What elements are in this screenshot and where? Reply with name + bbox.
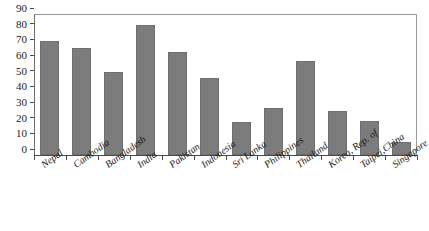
x-axis-tick-mark: [353, 156, 354, 160]
x-axis-tick-mark: [321, 156, 322, 160]
y-axis-tick: 10: [16, 127, 34, 139]
y-axis-tick: 80: [16, 18, 34, 30]
y-axis-tick: 0: [22, 143, 35, 155]
x-axis-tick-mark: [385, 156, 386, 160]
y-axis-tick: 40: [16, 80, 34, 92]
x-axis-tick-mark: [162, 156, 163, 160]
y-axis-tick-label: 60: [16, 49, 30, 61]
y-axis-tick-label: 50: [16, 65, 30, 77]
y-axis-tick-label: 30: [16, 96, 30, 108]
x-axis-tick-mark: [257, 156, 258, 160]
bar: [168, 52, 187, 155]
x-axis-tick-mark: [66, 156, 67, 160]
x-axis-tick-mark: [130, 156, 131, 160]
x-axis-tick-mark: [417, 156, 418, 160]
x-axis-tick-mark: [34, 156, 35, 160]
bar: [200, 78, 219, 155]
x-axis-tick-mark: [226, 156, 227, 160]
y-axis-tick: 90: [16, 2, 34, 14]
y-axis-tick-label: 0: [22, 143, 31, 155]
y-axis-tick: 60: [16, 49, 34, 61]
x-axis-labels: NepalCambodiaBangladeshIndiaPakistanIndo…: [34, 161, 427, 231]
y-axis-tick: 70: [16, 33, 34, 45]
bars-layer: [34, 14, 417, 155]
y-axis-tick-label: 40: [16, 80, 30, 92]
x-axis-tick-mark: [194, 156, 195, 160]
y-axis: 9080706050403020100: [0, 8, 34, 163]
y-axis-tick-mark: [30, 8, 34, 9]
bar: [40, 41, 59, 155]
x-axis-tick-mark: [98, 156, 99, 160]
bar: [72, 48, 91, 155]
y-axis-tick: 30: [16, 96, 34, 108]
y-axis-tick: 20: [16, 112, 34, 124]
y-axis-tick-label: 90: [16, 2, 30, 14]
x-axis-tick-mark: [289, 156, 290, 160]
y-axis-tick-label: 80: [16, 18, 30, 30]
y-axis-tick-label: 70: [16, 33, 30, 45]
y-axis-tick-label: 10: [16, 127, 30, 139]
y-axis-tick: 50: [16, 65, 34, 77]
y-axis-tick-label: 20: [16, 112, 30, 124]
